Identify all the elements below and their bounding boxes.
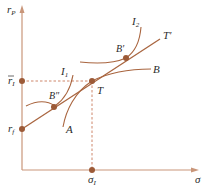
curve-A-B [63,69,151,127]
label-B: B [153,63,160,75]
point-B-prime [123,55,129,61]
point-r-bar-I [19,78,25,84]
line-T-prime [22,39,160,129]
label-I2: I2 [131,15,140,29]
axes [20,5,200,173]
x-axis-label: σ [195,173,201,185]
label-I1: I1 [60,65,68,79]
label-B-double-prime: B″ [49,90,60,101]
label-T: T [97,84,104,96]
label-B-prime: B′ [116,43,125,54]
label-sigma-I: σI [88,173,96,187]
svg-text:rI: rI [8,74,15,88]
label-r-f: rf [8,122,15,136]
x-axis-arrow-icon [191,168,199,173]
portfolio-diagram: rP rI rf σI σ T B″ B′ A B T′ I1 I2 [0,0,207,188]
y-axis-arrow-icon [20,5,25,13]
point-T [89,78,95,84]
point-r-f [19,126,25,132]
point-B-double-prime [51,104,57,110]
y-axis-label: rP [7,3,16,17]
label-A: A [65,123,73,135]
label-T-prime: T′ [163,29,172,41]
label-r-bar-I: rI [8,74,15,88]
